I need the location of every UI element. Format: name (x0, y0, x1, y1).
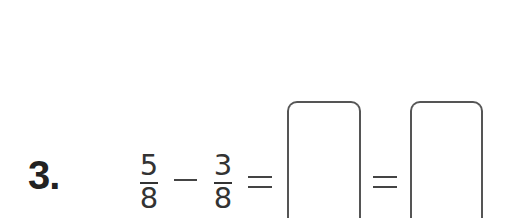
fraction-five-eighths: 5 8 (138, 150, 160, 214)
fraction-denominator: 8 (138, 183, 160, 213)
fraction-denominator: 8 (212, 183, 234, 213)
fraction-numerator: 5 (138, 150, 160, 180)
answer-box-2[interactable] (410, 101, 483, 218)
problem-number: 3. (28, 155, 59, 195)
fraction-numerator: 3 (212, 150, 234, 180)
equals-sign-1 (248, 176, 272, 188)
answer-box-1[interactable] (287, 101, 361, 218)
fraction-three-eighths: 3 8 (212, 150, 234, 214)
minus-sign (174, 179, 197, 181)
equals-sign-2 (373, 176, 397, 188)
